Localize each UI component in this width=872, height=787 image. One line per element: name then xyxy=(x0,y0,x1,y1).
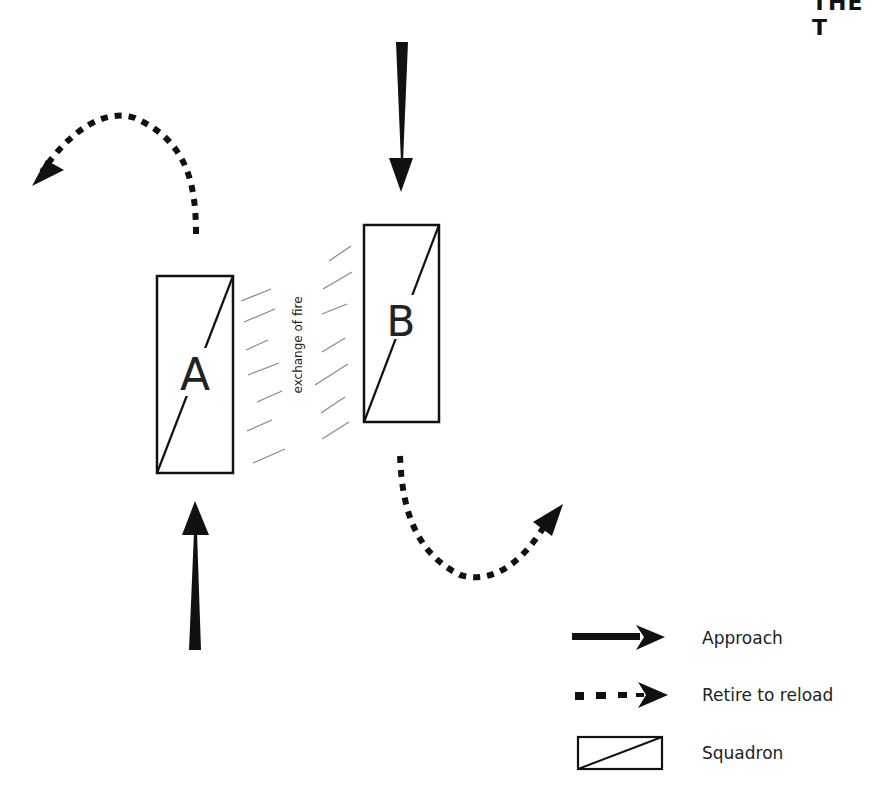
squadron-b-label: B xyxy=(387,297,416,346)
approach-arrow-a-icon xyxy=(182,501,209,650)
cavalry-tactic-diagram: A B exchange of fire xyxy=(0,0,872,787)
retire-arrow-b-icon xyxy=(400,456,563,577)
approach-arrow-b-icon xyxy=(389,42,413,192)
retire-arrow-a-icon xyxy=(32,116,196,234)
solid-arrow-icon xyxy=(572,625,665,650)
squadron-a-label: A xyxy=(180,349,210,400)
exchange-of-fire-label: exchange of fire xyxy=(291,296,305,393)
dashed-arrow-icon xyxy=(575,682,668,708)
squadron-box-icon xyxy=(578,737,662,769)
legend-approach-label: Approach xyxy=(702,628,783,648)
legend-retire-label: Retire to reload xyxy=(702,685,833,705)
legend-squadron-label: Squadron xyxy=(702,743,783,763)
legend: Approach Retire to reload Squadron xyxy=(572,625,833,769)
squadron-a: A xyxy=(157,276,233,473)
squadron-b: B xyxy=(364,225,439,422)
